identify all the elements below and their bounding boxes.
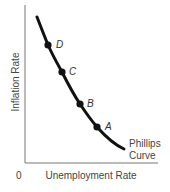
point-b-label: B [87,98,94,109]
point-a-label: A [104,121,112,132]
curve-label-line2: Curve [129,150,156,161]
x-axis-label: Unemployment Rate [45,170,137,181]
y-axis-label: Inflation Rate [10,52,21,111]
origin-label: 0 [16,170,22,181]
point-c-label: C [69,66,77,77]
phillips-curve-chart: D C B A Phillips Curve 0 Unemployment Ra… [0,0,170,192]
point-a-marker [93,123,100,130]
point-d-marker [44,41,51,48]
point-b-marker [76,100,83,107]
curve-label-line1: Phillips [129,138,161,149]
point-c-marker [58,68,65,75]
point-d-label: D [56,39,63,50]
